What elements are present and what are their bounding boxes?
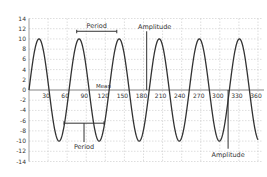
period-label-bottom: Period [74, 143, 94, 151]
period-label-top: Period [87, 22, 107, 30]
mean-label: Mean [96, 83, 111, 89]
y-tick-label: 0 [22, 86, 26, 93]
y-tick-label: -6 [20, 117, 26, 124]
y-tick-label: -12 [16, 147, 26, 154]
y-tick-label: 14 [18, 15, 26, 22]
y-tick-label: 2 [22, 76, 26, 83]
y-tick-label: 12 [18, 25, 26, 32]
x-tick-label: 270 [193, 92, 205, 99]
x-tick-label: 240 [174, 92, 186, 99]
x-tick-label: 360 [250, 92, 262, 99]
y-tick-label: 10 [18, 35, 26, 42]
x-tick-label: 150 [117, 92, 129, 99]
y-tick-label: -2 [20, 96, 26, 103]
x-tick-label: 330 [231, 92, 243, 99]
x-tick-label: 120 [98, 92, 110, 99]
x-tick-label: 210 [155, 92, 167, 99]
x-tick-label: 180 [136, 92, 148, 99]
y-tick-label: 8 [22, 45, 26, 52]
x-tick-label: 300 [212, 92, 224, 99]
y-tick-label: -8 [20, 127, 26, 134]
sine-wave-chart: 14121086420-2-4-6-8-10-12-14 30609012015… [0, 0, 267, 177]
y-tick-label: -4 [20, 106, 26, 113]
y-tick-label: 6 [22, 55, 26, 62]
y-tick-label: -10 [16, 137, 26, 144]
amplitude-label-bottom: Amplitude [211, 151, 244, 159]
y-axis-tick-labels: 14121086420-2-4-6-8-10-12-14 [16, 15, 26, 165]
amplitude-label-top: Amplitude [138, 23, 171, 31]
x-tick-label: 90 [80, 92, 88, 99]
y-tick-label: 4 [22, 66, 26, 73]
y-tick-label: -14 [16, 158, 26, 165]
